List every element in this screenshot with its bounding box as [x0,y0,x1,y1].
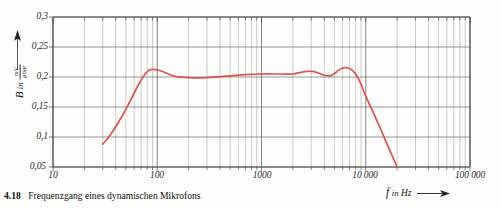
x-tick-label: 10 000 [342,170,388,180]
horizontal-gridlines [49,17,470,167]
figure-frequency-response: 0,3 0,25 0,2 0,15 0,1 0,05 10 100 1000 1… [0,0,502,208]
y-axis-in-word: in [15,82,25,89]
x-tick-label: 10 [39,170,67,180]
y-axis-title: B in mV µbar [13,55,28,107]
y-tick-label: 0,3 [18,11,48,21]
y-tick-label: 0,1 [18,131,48,141]
x-axis-title: f in Hz [386,186,451,198]
y-tick-label: 0,25 [18,41,48,51]
y-axis-symbol: B [13,92,25,99]
x-axis-unit: Hz [401,188,411,198]
figure-number: 4.18 [4,190,21,201]
x-axis-symbol: f [386,186,389,198]
minor-gridlines [53,17,470,167]
x-tick-label: 100 000 [444,170,496,180]
x-axis-arrow-icon [417,189,451,198]
figure-caption-text: Frequenzgang eines dynamischen Mikrofons [28,190,200,201]
x-tick-label: 100 [141,170,173,180]
x-axis-in-word: in [392,188,399,198]
x-tick-label: 1000 [243,170,281,180]
y-axis-unit-fraction: mV µbar [13,64,27,79]
figure-caption: 4.18 Frequenzgang eines dynamischen Mikr… [4,190,201,201]
y-axis-unit-denominator: µbar [20,64,27,79]
